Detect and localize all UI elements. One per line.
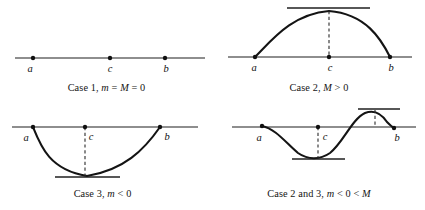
caption-case-2-var2: 0 (343, 82, 348, 93)
curve-case-3 (33, 127, 160, 176)
caption-case-3-var1: m (107, 188, 115, 199)
figure-root: a c b a c b a c b (0, 0, 425, 210)
panel-case-3: a c b (12, 125, 198, 177)
point-b-case-2 (388, 55, 392, 59)
panel-case-1: a c b (15, 56, 205, 74)
caption-case-2-and-3-prefix: Case 2 and 3, (267, 188, 326, 199)
point-a-case-1 (31, 56, 35, 60)
caption-case-3-var2: 0 (126, 188, 131, 199)
point-c-case-2-and-3 (316, 125, 320, 129)
label-a-case-1: a (27, 63, 32, 74)
caption-case-2-prefix: Case 2, (290, 82, 324, 93)
label-c-case-2: c (328, 62, 333, 73)
curve-case-2-and-3 (262, 112, 394, 158)
caption-case-1-mid: = (109, 82, 120, 93)
label-c-case-1: c (108, 63, 113, 74)
label-a-case-3: a (23, 132, 28, 143)
label-c-case-3: c (89, 131, 94, 142)
point-a-case-2-and-3 (260, 124, 264, 128)
label-a-case-2-and-3: a (256, 132, 261, 143)
caption-case-1-var1: m (101, 82, 109, 93)
curve-case-2 (255, 11, 390, 57)
point-c-case-2 (327, 55, 331, 59)
caption-case-2-var1: M (323, 82, 332, 93)
panel-case-2-and-3: a c b (232, 109, 416, 159)
caption-case-1: Case 1, m = M = 0 (0, 82, 213, 93)
point-a-case-2 (253, 55, 257, 59)
caption-case-2-and-3: Case 2 and 3, m < 0 < M (213, 188, 425, 199)
caption-case-1-var2: M (120, 82, 129, 93)
caption-case-2: Case 2, M > 0 (213, 82, 425, 93)
label-b-case-1: b (163, 63, 168, 74)
caption-case-3: Case 3, m < 0 (0, 188, 205, 199)
figure-canvas: a c b a c b a c b (0, 0, 425, 210)
caption-case-1-suffix: = 0 (129, 82, 146, 93)
caption-case-2-and-3-mid: < 0 < (334, 188, 362, 199)
label-c-case-2-and-3: c (323, 131, 328, 142)
panel-case-2: a c b (228, 8, 412, 73)
caption-case-1-prefix: Case 1, (68, 82, 102, 93)
point-c-case-1 (108, 56, 112, 60)
caption-case-2-mid: > (332, 82, 343, 93)
point-b-case-1 (163, 56, 167, 60)
label-b-case-2: b (388, 62, 393, 73)
label-a-case-2: a (251, 62, 256, 73)
label-b-case-2-and-3: b (394, 132, 399, 143)
caption-case-2-and-3-var2: M (362, 188, 371, 199)
caption-case-3-mid: < (115, 188, 126, 199)
point-c-case-3 (83, 125, 87, 129)
caption-case-3-prefix: Case 3, (74, 188, 108, 199)
point-a-case-3 (31, 125, 35, 129)
label-b-case-3: b (164, 131, 169, 142)
point-b-case-2-and-3 (392, 126, 396, 130)
point-b-case-3 (158, 125, 162, 129)
